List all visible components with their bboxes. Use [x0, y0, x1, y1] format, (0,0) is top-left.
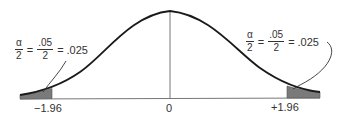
- left-critical-value-label: −1.96: [34, 103, 62, 114]
- alpha-over-two-fraction: α 2: [246, 30, 254, 53]
- left-tail-probability: .025: [67, 44, 88, 56]
- mean-label: 0: [166, 103, 172, 114]
- left-leader-line: [43, 61, 66, 92]
- right-alpha-annotation: α 2 = .05 2 = .025: [245, 30, 319, 53]
- alpha-over-two-fraction: α 2: [15, 38, 23, 61]
- right-critical-value-label: +1.96: [271, 102, 299, 113]
- value-over-two-fraction: .05 2: [37, 38, 53, 61]
- left-alpha-annotation: α 2 = .05 2 = .025: [14, 38, 88, 61]
- right-tail-probability: .025: [298, 36, 319, 48]
- value-over-two-fraction: .05 2: [268, 30, 284, 53]
